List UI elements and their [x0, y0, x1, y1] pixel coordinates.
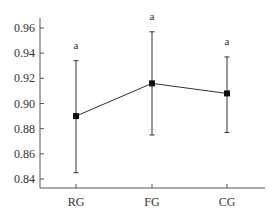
error-bar-chart: 0.840.860.880.900.920.940.96 RGFGCG aaa — [0, 0, 280, 218]
y-tick-label: 0.96 — [14, 21, 35, 35]
y-tick-label: 0.88 — [14, 122, 35, 136]
significance-letter: a — [74, 39, 79, 51]
chart-container: 0.840.860.880.900.920.940.96 RGFGCG aaa — [0, 0, 280, 218]
y-tick-label: 0.92 — [14, 71, 35, 85]
data-point-marker — [224, 90, 230, 96]
x-tick-label: RG — [68, 195, 85, 209]
y-tick-label: 0.86 — [14, 147, 35, 161]
x-tick-label: FG — [144, 195, 160, 209]
y-tick-label: 0.84 — [14, 172, 35, 186]
data-point-marker — [73, 113, 79, 119]
significance-letter: a — [225, 35, 230, 47]
data-point-marker — [149, 80, 155, 86]
error-bars — [74, 32, 230, 173]
significance-letter: a — [150, 10, 155, 22]
y-tick-label: 0.94 — [14, 46, 35, 60]
y-tick-label: 0.90 — [14, 97, 35, 111]
x-tick-label: CG — [219, 195, 236, 209]
